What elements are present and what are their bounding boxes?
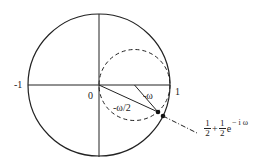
frac2-numerator: 1 bbox=[220, 119, 225, 128]
formula-point: 1 2 + 1 2 e − i ω bbox=[203, 119, 248, 138]
label-minus-one: -1 bbox=[14, 80, 22, 90]
label-one: 1 bbox=[175, 87, 180, 97]
frac1-numerator: 1 bbox=[205, 119, 210, 128]
fraction-half-1: 1 2 bbox=[204, 119, 211, 138]
frac1-denominator: 2 bbox=[205, 129, 210, 138]
fraction-half-2: 1 2 bbox=[219, 119, 226, 138]
exp-exponent: − i ω bbox=[232, 118, 248, 127]
diagram-canvas bbox=[0, 0, 275, 163]
label-angle-half-omega: -ω/2 bbox=[113, 103, 131, 113]
exp-base: e bbox=[227, 123, 231, 134]
plus-sign: + bbox=[212, 123, 218, 134]
label-origin: 0 bbox=[88, 91, 93, 101]
pointer-leader bbox=[163, 116, 197, 133]
point-on-dashed-circle bbox=[156, 110, 161, 115]
frac2-denominator: 2 bbox=[220, 129, 225, 138]
label-angle-omega: -ω bbox=[143, 91, 153, 101]
